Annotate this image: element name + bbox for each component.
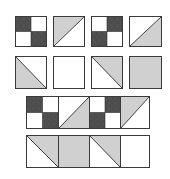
strip-1-unit-half-triangle-upper-left	[120, 97, 149, 128]
block-four-patch-a	[15, 16, 47, 47]
block-plain-light	[129, 56, 162, 89]
strip-2-unit-half-triangle-upper-right-a	[27, 136, 58, 167]
strip-1-unit-four-patch-a	[27, 97, 58, 128]
strip-2-unit-plain-light	[58, 136, 89, 167]
strip-1-unit-four-patch-b	[89, 97, 120, 128]
block-half-triangle-upper-left	[53, 16, 85, 47]
strip-2-unit-plain-white	[120, 136, 149, 167]
block-half-triangle-upper-right	[91, 56, 123, 89]
block-half-triangle-lower-right	[129, 16, 162, 47]
block-plain-white	[53, 56, 85, 89]
strip-1	[26, 96, 150, 129]
strip-1-unit-half-triangle-lower-right	[58, 97, 89, 128]
strip-2	[26, 135, 150, 168]
strip-2-unit-half-triangle-upper-right-b	[89, 136, 120, 167]
block-half-triangle-lower-left	[15, 56, 47, 89]
block-four-patch-b	[91, 16, 123, 47]
